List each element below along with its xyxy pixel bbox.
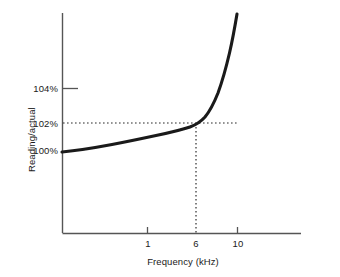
y-tick-label-100: 100%	[16, 145, 58, 156]
x-axis-title: Frequency (kHz)	[128, 256, 238, 267]
chart-plot-area	[0, 0, 340, 277]
y-axis-title: Reading/actual	[26, 107, 37, 172]
x-tick-label-1: 1	[134, 238, 162, 249]
y-tick-label-102: 102%	[16, 118, 58, 129]
chart-figure: Reading/actual 104% 102% 100% 1 6 10 Fre…	[0, 0, 340, 277]
x-tick-label-10: 10	[224, 238, 252, 249]
y-tick-label-104: 104%	[16, 83, 58, 94]
x-tick-label-6: 6	[182, 238, 210, 249]
response-curve	[62, 14, 237, 152]
